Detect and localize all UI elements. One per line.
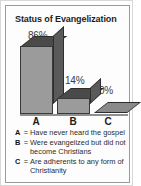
- legend-text-c: Are adherents to any form of Christianit…: [30, 157, 131, 175]
- page-title: Status of Evangelization: [15, 14, 117, 24]
- legend-separator-a: =: [22, 128, 30, 137]
- chart-frame: Status of Evangelization 86% 14% 0%: [5, 5, 130, 183]
- legend-item-b: B = Were evangelized but did not become …: [15, 138, 131, 156]
- legend-key-a: A: [15, 128, 22, 137]
- bar-b-side-face: [90, 78, 101, 104]
- legend-item-c: C = Are adherents to any form of Christi…: [15, 157, 131, 175]
- bar-c-top-face: [94, 102, 133, 113]
- legend-text-b: Were evangelized but did not become Chri…: [30, 138, 131, 156]
- legend-key-c: C: [15, 157, 22, 166]
- chart-panel: Status of Evangelization 86% 14% 0%: [0, 0, 133, 186]
- category-label-b: B: [66, 116, 80, 127]
- bar-b-front-face: [57, 98, 90, 114]
- legend-item-a: A = Have never heard the gospel: [15, 128, 131, 137]
- bar-a-front-face: [20, 46, 53, 114]
- legend-key-b: B: [15, 138, 22, 147]
- category-label-a: A: [29, 116, 43, 127]
- legend-separator-c: =: [22, 157, 30, 166]
- legend: A = Have never heard the gospel B = Were…: [15, 128, 131, 176]
- legend-text-a: Have never heard the gospel: [30, 128, 131, 137]
- category-label-c: C: [101, 116, 115, 127]
- legend-separator-b: =: [22, 138, 30, 147]
- plot-area: 86% 14% 0% A B C: [11, 28, 133, 123]
